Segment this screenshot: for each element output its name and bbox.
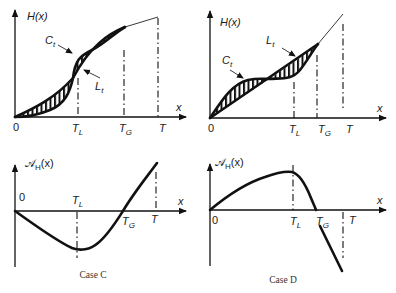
hatched-region-upper	[73, 27, 125, 78]
tick-label-tl: TL	[289, 123, 300, 138]
origin-label: 0	[212, 214, 218, 226]
panel-case-c-cumulative: H(x) x 0 TL TG T Ct Lt	[13, 10, 186, 137]
tick-label-tg: TG	[122, 215, 135, 230]
tick-label-tg: TG	[318, 123, 331, 138]
origin-label: 0	[208, 122, 214, 134]
tick-label-t: T	[151, 213, 159, 225]
panel-case-d-difference: 𝒜H(x) x 0 TL TG T Case D	[210, 156, 386, 285]
tick-label-tg: TG	[119, 122, 132, 137]
tick-label-tl: TL	[72, 122, 83, 137]
lt-pointer-arrow	[84, 70, 100, 78]
origin-label: 0	[19, 191, 25, 203]
curve-label-lt: Lt	[266, 34, 275, 49]
x-axis-label: x	[376, 194, 383, 206]
panel-case-d-cumulative: H(x) x 0 TL TG T Ct Lt	[208, 11, 386, 138]
curve-extension	[125, 17, 158, 27]
x-axis-label: x	[376, 102, 383, 114]
y-axis-label: H(x)	[220, 16, 241, 28]
origin-label: 0	[13, 121, 19, 133]
curve-ct	[15, 27, 125, 117]
difference-curve	[210, 172, 316, 210]
tick-label-tg: TG	[316, 215, 329, 230]
ct-pointer-arrow	[58, 45, 72, 53]
curve-label-ct: Ct	[45, 34, 56, 49]
lt-pointer-arrow	[282, 48, 295, 56]
y-axis-label: 𝒜H(x)	[215, 156, 244, 171]
caption-case-d: Case D	[269, 275, 297, 285]
caption-case-c: Case C	[79, 270, 106, 280]
curve-label-lt: Lt	[95, 80, 104, 95]
tick-label-tl: TL	[290, 215, 301, 230]
difference-curve	[15, 163, 157, 250]
y-axis-label: H(x)	[27, 10, 48, 22]
y-axis-label: 𝒜H(x)	[25, 157, 54, 172]
diagram-canvas: H(x) x 0 TL TG T Ct Lt H(x) x 0 TL TG T …	[0, 0, 396, 293]
panel-case-c-difference: 𝒜H(x) x 0 TL TG T Case C	[15, 157, 186, 280]
ct-pointer-arrow	[230, 70, 243, 78]
tick-label-tl: TL	[72, 194, 83, 209]
tick-label-t: T	[346, 123, 354, 135]
x-axis-label: x	[177, 195, 184, 207]
tick-label-t: T	[159, 122, 167, 134]
curve-label-ct: Ct	[222, 54, 233, 69]
x-axis-label: x	[175, 101, 182, 113]
curve-extension	[318, 14, 343, 44]
tick-label-t: T	[349, 214, 357, 226]
difference-curve-tail	[320, 226, 342, 271]
